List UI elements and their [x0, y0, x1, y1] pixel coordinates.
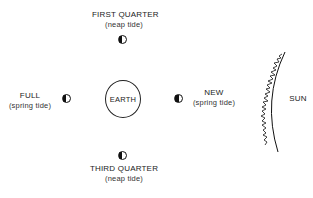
sun-label: SUN	[287, 94, 309, 104]
moon-phases-tide-diagram: FIRST QUARTER (neap tide) FULL (spring t…	[0, 0, 313, 198]
sun-limb-icon	[0, 0, 313, 198]
